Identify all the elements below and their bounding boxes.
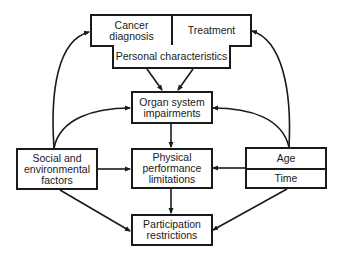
treatment-label: Treatment bbox=[188, 25, 235, 36]
organ-line1: Organ system bbox=[139, 97, 204, 108]
personal-label: Personal characteristics bbox=[116, 51, 227, 62]
time-label: Time bbox=[275, 173, 298, 184]
cancer-diagnosis-line2: diagnosis bbox=[109, 31, 153, 42]
node-diagnosis-treatment: Cancer diagnosis Treatment bbox=[90, 14, 252, 47]
organ-line2: impairments bbox=[143, 108, 200, 119]
participation-line2: restrictions bbox=[147, 230, 198, 241]
social-line3: factors bbox=[41, 175, 73, 186]
cancer-diagnosis-line1: Cancer bbox=[115, 20, 149, 31]
arrow-agetime-to-organ bbox=[213, 108, 289, 147]
arrow-social-to-organ bbox=[54, 108, 130, 148]
arrow-social-to-diagnosis bbox=[53, 32, 89, 148]
node-social-environmental: Social and environmental factors bbox=[16, 148, 98, 190]
arrow-personal-to-organ-right bbox=[178, 69, 193, 90]
node-treatment: Treatment bbox=[173, 16, 250, 45]
age-label: Age bbox=[277, 153, 296, 164]
node-age: Age bbox=[247, 149, 325, 170]
node-physical-performance: Physical performance limitations bbox=[131, 148, 213, 189]
arrow-personal-to-organ-left bbox=[147, 69, 162, 90]
node-organ-system-impairments: Organ system impairments bbox=[131, 91, 213, 124]
node-participation-restrictions: Participation restrictions bbox=[131, 214, 213, 246]
node-time: Time bbox=[247, 170, 325, 187]
node-cancer-diagnosis: Cancer diagnosis bbox=[92, 16, 173, 45]
social-line1: Social and bbox=[32, 153, 81, 164]
social-line2: environmental bbox=[24, 164, 90, 175]
arrow-agetime-to-participation bbox=[213, 189, 287, 230]
arrow-agetime-to-treatment bbox=[252, 31, 290, 147]
node-personal-characteristics: Personal characteristics bbox=[112, 45, 231, 69]
node-age-time: Age Time bbox=[245, 147, 327, 189]
physical-line3: limitations bbox=[149, 174, 196, 185]
arrow-social-to-participation bbox=[60, 190, 130, 231]
